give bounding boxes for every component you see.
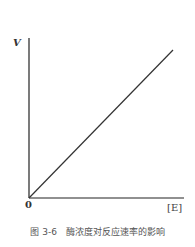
origin-label: 0 <box>25 199 32 210</box>
data-line <box>29 50 173 198</box>
figure-caption: 图 3-6 酶浓度对反应速率的影响 <box>0 225 195 238</box>
figure: V 0 [E] 图 3-6 酶浓度对反应速率的影响 <box>0 0 195 247</box>
x-axis-label: [E] <box>167 202 182 213</box>
y-axis-label: V <box>13 37 21 48</box>
